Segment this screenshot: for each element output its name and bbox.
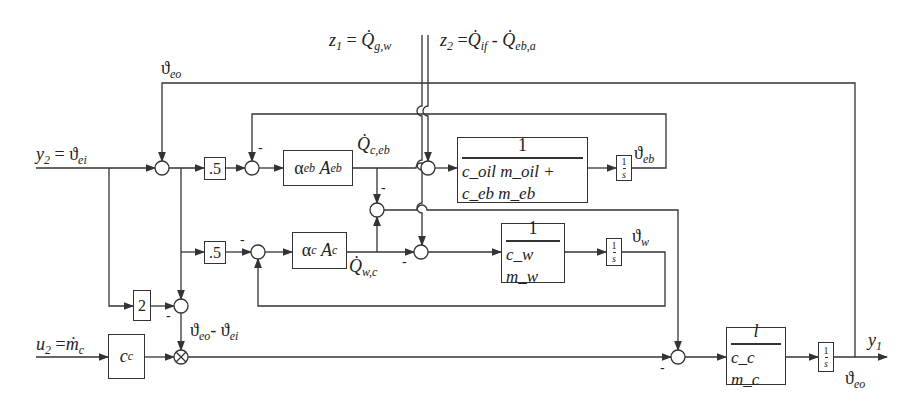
sum-junction-2 bbox=[245, 161, 259, 175]
theta-eo-top-label: ϑeo bbox=[161, 58, 181, 82]
cc-gain-block: cc bbox=[108, 334, 145, 379]
sum-junction-1 bbox=[155, 161, 169, 175]
theta-diff-label: ϑeo- ϑei bbox=[190, 320, 238, 344]
q-c-eb-label: Q̇c,eb bbox=[357, 134, 390, 158]
sum-junction-diff bbox=[370, 203, 384, 217]
alpha-c-block: αc Ac bbox=[292, 232, 347, 269]
q-w-c-label: Q̇w,c bbox=[349, 256, 377, 280]
minus-sign: - bbox=[381, 180, 386, 196]
gain-half-bottom-block: .5 bbox=[204, 241, 226, 264]
u2-label: u2 =ṁc bbox=[36, 334, 84, 358]
minus-sign: - bbox=[660, 360, 665, 376]
integrator-eo-block: 1s bbox=[818, 342, 834, 372]
minus-sign: - bbox=[258, 140, 263, 156]
alpha-eb-block: αeb Aeb bbox=[283, 150, 353, 186]
z1-label: z1 = Q̇g,w bbox=[329, 30, 391, 54]
gain-half-top-block: .5 bbox=[204, 157, 226, 180]
gain-two-block: 2 bbox=[133, 290, 151, 321]
sum-junction-7 bbox=[671, 350, 685, 364]
z2-label: z2 =Q̇if - Q̇eb,a bbox=[440, 30, 536, 54]
theta-w-label: ϑw bbox=[632, 226, 649, 250]
y2-label: y2 = ϑei bbox=[36, 144, 87, 168]
minus-sign: - bbox=[240, 232, 245, 248]
water-transfer-block: 1c_w m_w bbox=[501, 223, 565, 283]
minus-sign: - bbox=[166, 308, 171, 324]
theta-eb-label: ϑeb bbox=[634, 143, 654, 167]
theta-eo-out-label: ϑeo bbox=[845, 368, 865, 392]
y1-label: y1 bbox=[868, 330, 882, 354]
cc-mc-transfer-block: lc_c m_c bbox=[726, 327, 786, 385]
integrator-eb-block: 1s bbox=[616, 155, 632, 181]
oil-transfer-block: 1c_oil m_oil + c_eb m_eb bbox=[457, 137, 588, 203]
minus-sign: - bbox=[402, 254, 407, 270]
sum-junction-3 bbox=[421, 161, 435, 175]
integrator-w-block: 1s bbox=[606, 238, 622, 266]
sum-junction-4 bbox=[251, 245, 265, 259]
sum-junction-5 bbox=[414, 245, 428, 259]
sum-junction-6 bbox=[174, 299, 188, 313]
